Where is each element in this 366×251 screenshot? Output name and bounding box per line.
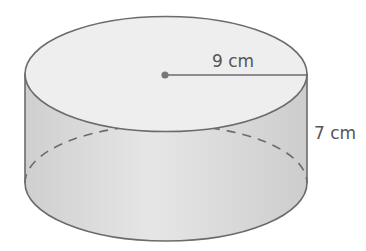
radius-label: 9 cm: [212, 51, 254, 71]
height-label: 7 cm: [314, 123, 356, 143]
center-point: [161, 71, 168, 78]
cylinder-diagram: 9 cm 7 cm: [0, 0, 366, 251]
